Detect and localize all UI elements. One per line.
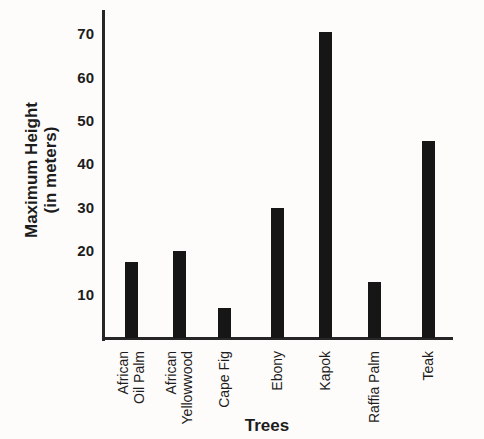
y-tick-30: 30 bbox=[54, 199, 94, 217]
bar-raffia-palm bbox=[368, 282, 381, 338]
x-tick-label-african-yellowwood: African Yellowwood bbox=[163, 351, 195, 424]
bar-african-yellowwood bbox=[173, 251, 186, 338]
y-axis-line bbox=[102, 10, 105, 341]
bar-teak bbox=[422, 141, 435, 338]
y-tick-10: 10 bbox=[54, 286, 94, 304]
bar-african-oil-palm bbox=[125, 262, 138, 338]
x-tick-label-african-oil-palm: African Oil Palm bbox=[115, 351, 147, 404]
y-tick-70: 70 bbox=[54, 25, 94, 43]
y-tick-40: 40 bbox=[54, 155, 94, 173]
x-tick-label-raffia-palm: Raffia Palm bbox=[366, 351, 382, 423]
x-tick-label-cape-fig: Cape Fig bbox=[216, 351, 232, 408]
x-tick-label-ebony: Ebony bbox=[269, 351, 285, 391]
y-tick-50: 50 bbox=[54, 112, 94, 130]
y-tick-60: 60 bbox=[54, 69, 94, 87]
bar-kapok bbox=[319, 32, 332, 338]
x-axis-title: Trees bbox=[245, 416, 289, 436]
x-tick-label-teak: Teak bbox=[420, 351, 436, 381]
bar-chart: Maximum Height (in meters) 1020304050607… bbox=[0, 0, 484, 439]
bar-ebony bbox=[271, 208, 284, 338]
x-tick-label-kapok: Kapok bbox=[317, 351, 333, 391]
bar-cape-fig bbox=[218, 308, 231, 338]
y-tick-20: 20 bbox=[54, 242, 94, 260]
